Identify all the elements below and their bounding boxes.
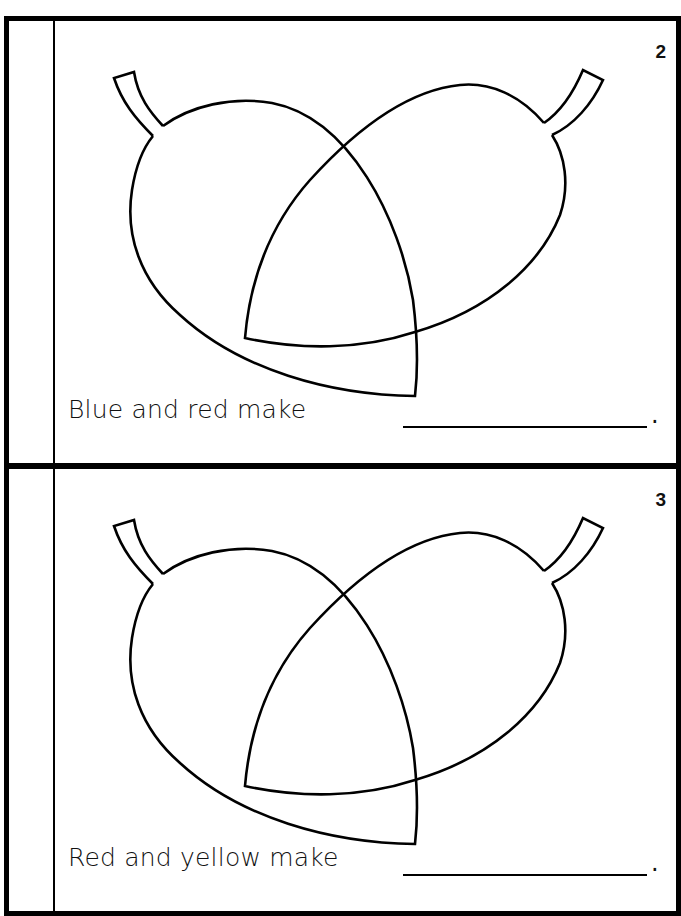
left-leaf-outline-icon	[130, 101, 417, 396]
right-leaf-outline-icon	[245, 533, 565, 795]
left-leaf-outline-icon	[130, 549, 417, 844]
sentence-period: .	[651, 849, 659, 877]
right-leaf-stem-icon	[544, 518, 603, 583]
page-panel-3: 3 Red and yellow make .	[9, 469, 676, 911]
left-leaf-stem-icon	[114, 72, 163, 136]
answer-blank-line[interactable]	[403, 874, 647, 876]
right-leaf-stem-icon	[544, 70, 603, 135]
left-leaf-stem-icon	[114, 520, 163, 584]
right-leaf-outline-icon	[245, 85, 565, 347]
binding-margin-line	[53, 21, 55, 911]
page-panel-2: 2 Blue and red make .	[9, 21, 676, 463]
sentence-prompt: Red and yellow make	[68, 843, 339, 872]
worksheet-frame: 2 Blue and red make . 3	[4, 16, 681, 916]
answer-blank-line[interactable]	[403, 426, 647, 428]
sentence-prompt: Blue and red make	[68, 395, 306, 424]
sentence-period: .	[651, 401, 659, 429]
